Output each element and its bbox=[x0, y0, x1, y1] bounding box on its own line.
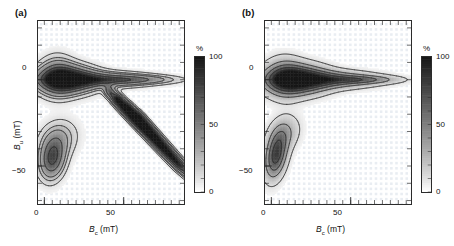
panel-b-xtick-1: 50 bbox=[333, 208, 342, 217]
panel-a-xtick-1: 50 bbox=[106, 208, 115, 217]
panel-b-colorbar-tick-100: 100 bbox=[436, 52, 449, 61]
panel-b-ytick-0: 0 bbox=[249, 63, 253, 72]
panel-a-ytick-0: 0 bbox=[22, 63, 26, 72]
panel-a-y-axis-label: Bu (mT) bbox=[12, 121, 24, 150]
panel-a-ytick-1: −50 bbox=[12, 166, 26, 175]
panel-b-colorbar-unit: % bbox=[423, 44, 430, 53]
panel-b-ytick-1: −50 bbox=[239, 166, 253, 175]
panel-b-colorbar-gradient bbox=[421, 56, 432, 193]
panel-a: (a) 0 −50 Bu (mT) 0 50 Bc (mT) % 100 50 … bbox=[0, 0, 227, 246]
panel-a-plot-area bbox=[37, 20, 185, 205]
panel-a-heatmap bbox=[38, 21, 184, 204]
panel-b: (b) 0 −50 0 50 Bc (mT) % 100 50 0 bbox=[227, 0, 454, 246]
panel-b-colorbar-tick-50: 50 bbox=[436, 120, 445, 129]
panel-a-colorbar-tick-0: 0 bbox=[209, 187, 213, 196]
panel-a-colorbar-tick-50: 50 bbox=[209, 120, 218, 129]
forc-figure: (a) 0 −50 Bu (mT) 0 50 Bc (mT) % 100 50 … bbox=[0, 0, 454, 246]
panel-b-x-axis-label: Bc (mT) bbox=[316, 224, 345, 236]
panel-b-colorbar-tick-0: 0 bbox=[436, 187, 440, 196]
panel-a-label: (a) bbox=[15, 7, 27, 18]
panel-a-colorbar-unit: % bbox=[196, 44, 203, 53]
panel-a-xtick-0: 0 bbox=[34, 208, 38, 217]
panel-a-x-axis-label: Bc (mT) bbox=[89, 224, 118, 236]
panel-b-label: (b) bbox=[242, 7, 255, 18]
panel-b-heatmap bbox=[265, 21, 411, 204]
panel-a-colorbar-gradient bbox=[194, 56, 205, 193]
panel-b-xtick-0: 0 bbox=[261, 208, 265, 217]
panel-b-plot-area bbox=[264, 20, 412, 205]
panel-a-colorbar-tick-100: 100 bbox=[209, 52, 222, 61]
